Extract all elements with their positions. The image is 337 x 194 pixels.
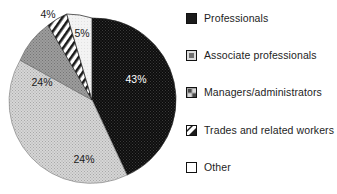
diagonal-hatch-square-icon	[186, 125, 197, 136]
legend-item-trades-and-related-workers[interactable]: Trades and related workers	[186, 123, 334, 137]
legend-item-professionals[interactable]: Professionals	[186, 11, 268, 25]
legend-item-managers-administrators[interactable]: Managers/administrators	[186, 85, 322, 99]
pie-chart-area: 43% 24% 24% 4% 5%	[0, 0, 185, 194]
pie-chart-svg: 43% 24% 24% 4% 5%	[0, 0, 185, 194]
pie-slice-label-trades-and-related-workers: 4%	[40, 8, 55, 20]
legend-item-associate-professionals[interactable]: Associate professionals	[186, 48, 317, 62]
solid-dark-square-icon	[186, 13, 197, 24]
light-dotted-square-icon	[186, 50, 197, 61]
pie-slice-label-other: 5%	[74, 27, 89, 39]
pie-slice-label-associate-professionals: 24%	[73, 153, 94, 165]
legend-label: Trades and related workers	[204, 124, 334, 136]
empty-square-icon	[186, 162, 197, 173]
legend-label: Managers/administrators	[204, 86, 322, 98]
legend-label: Professionals	[204, 12, 268, 24]
legend-label: Other	[204, 161, 231, 173]
legend-item-other[interactable]: Other	[186, 160, 231, 174]
legend-label: Associate professionals	[204, 49, 317, 61]
checkered-square-icon	[186, 87, 197, 98]
pie-slice-label-managers-administrators: 24%	[31, 76, 52, 88]
pie-slice-label-professionals: 43%	[125, 73, 146, 85]
chart-legend: Professionals Associate professionals	[186, 0, 337, 194]
pie-chart-figure: 43% 24% 24% 4% 5% Professionals Associat…	[0, 0, 337, 194]
